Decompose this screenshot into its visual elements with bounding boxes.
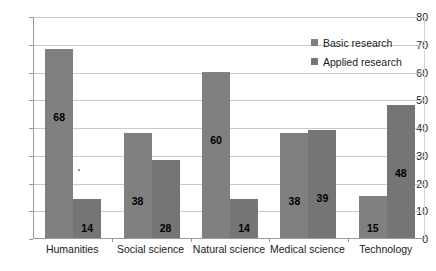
legend-item-basic-research: Basic research bbox=[311, 33, 423, 52]
bar-social-science-basic-research: 38 bbox=[124, 133, 152, 238]
bar-value-label: 14 bbox=[73, 222, 101, 234]
bar-value-label: 38 bbox=[124, 195, 152, 207]
x-tick-label-humanities: Humanities bbox=[33, 243, 111, 255]
bar-value-label: 39 bbox=[308, 192, 336, 204]
category-separator-tick bbox=[112, 238, 113, 242]
legend-label: Applied research bbox=[323, 56, 402, 68]
bar-medical-science-applied-research: 39 bbox=[308, 130, 336, 238]
legend-swatch-icon bbox=[311, 58, 318, 65]
bar-humanities-basic-research: 68 bbox=[45, 49, 73, 238]
gridline-80 bbox=[34, 17, 424, 18]
x-tick-label-medical-science: Medical science bbox=[268, 243, 346, 255]
bar-value-label: 60 bbox=[202, 134, 230, 146]
bar-value-label: 38 bbox=[280, 195, 308, 207]
y-tick-mark-0 bbox=[29, 239, 33, 240]
bar-technology-applied-research: 48 bbox=[387, 105, 415, 238]
bar-humanities-applied-research: 14 bbox=[73, 199, 101, 238]
bar-value-label: 68 bbox=[45, 111, 73, 123]
bar-value-label: 15 bbox=[359, 222, 387, 234]
x-tick-label-social-science: Social science bbox=[111, 243, 189, 255]
scan-artifact-speck bbox=[78, 169, 80, 171]
legend-label: Basic research bbox=[323, 37, 392, 49]
bar-value-label: 48 bbox=[387, 167, 415, 179]
bar-medical-science-basic-research: 38 bbox=[280, 133, 308, 238]
legend-item-applied-research: Applied research bbox=[311, 52, 423, 71]
bar-natural-science-basic-research: 60 bbox=[202, 72, 230, 239]
bar-value-label: 14 bbox=[230, 222, 258, 234]
category-separator-tick bbox=[191, 238, 192, 242]
legend-swatch-icon bbox=[311, 39, 318, 46]
x-tick-label-natural-science: Natural science bbox=[190, 243, 268, 255]
bar-chart: 01020304050607080 68143828601438391548 H… bbox=[0, 0, 436, 271]
category-separator-tick bbox=[269, 238, 270, 242]
gridline-0 bbox=[34, 238, 424, 239]
bar-technology-basic-research: 15 bbox=[359, 196, 387, 238]
x-tick-label-technology: Technology bbox=[347, 243, 425, 255]
chart-legend: Basic researchApplied research bbox=[311, 33, 423, 71]
bar-value-label: 28 bbox=[152, 222, 180, 234]
bar-social-science-applied-research: 28 bbox=[152, 160, 180, 238]
category-separator-tick bbox=[348, 238, 349, 242]
bar-natural-science-applied-research: 14 bbox=[230, 199, 258, 238]
